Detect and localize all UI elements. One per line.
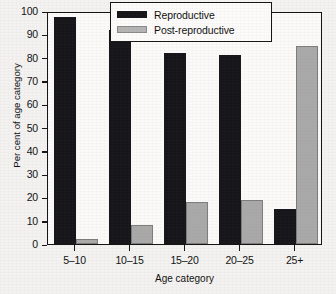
x-axis-tick-label: 20–25	[225, 254, 253, 266]
bar-group	[164, 13, 208, 244]
bar-reproductive	[54, 17, 76, 244]
bars-container	[48, 13, 321, 244]
bar-chart-figure: 0102030405060708090100 Per cent of age c…	[0, 0, 336, 294]
bar-group	[219, 13, 263, 244]
x-axis-title: Age category	[47, 273, 322, 284]
bar-post-reproductive	[241, 200, 263, 244]
x-axis-tick-mark	[294, 245, 295, 251]
y-axis-tick-label: 0	[32, 238, 38, 250]
y-axis-tick-label: 10	[27, 215, 38, 227]
bar-post-reproductive	[186, 202, 208, 244]
bar-group	[54, 13, 98, 244]
x-axis-tick-mark	[239, 245, 240, 251]
y-axis-tick-label: 100	[21, 5, 38, 17]
bar-group	[109, 13, 153, 244]
x-axis-tick-label: 25+	[286, 254, 303, 266]
legend-label-reproductive: Reproductive	[154, 9, 215, 21]
y-axis-tick-label: 90	[27, 28, 38, 40]
bar-reproductive	[109, 30, 131, 244]
y-axis-tick-label: 40	[27, 145, 38, 157]
x-axis-tick-mark	[74, 245, 75, 251]
x-axis: 5–1010–1515–2020–2525+	[47, 245, 322, 275]
y-axis-tick-label: 20	[27, 191, 38, 203]
y-axis-tick-label: 60	[27, 98, 38, 110]
bar-reproductive	[274, 209, 296, 244]
x-axis-tick-mark	[129, 245, 130, 251]
legend-swatch-reproductive	[117, 11, 147, 18]
bar-post-reproductive	[76, 239, 98, 244]
legend-label-post-reproductive: Post-reproductive	[154, 24, 235, 36]
y-axis-tick-label: 70	[27, 75, 38, 87]
y-axis-tick-label: 50	[27, 122, 38, 134]
legend-item-reproductive: Reproductive	[117, 7, 265, 22]
x-axis-tick-label: 5–10	[63, 254, 86, 266]
bar-post-reproductive	[296, 46, 318, 244]
y-axis-tick-label: 30	[27, 168, 38, 180]
y-axis-title: Per cent of age category	[11, 36, 22, 196]
y-axis: 0102030405060708090100	[0, 12, 47, 245]
x-axis-tick-label: 15–20	[170, 254, 198, 266]
plot-area	[47, 12, 322, 245]
legend-swatch-post-reproductive	[117, 26, 147, 33]
bar-post-reproductive	[131, 225, 153, 244]
bar-reproductive	[164, 53, 186, 244]
bar-reproductive	[219, 55, 241, 244]
x-axis-tick-label: 10–15	[115, 254, 143, 266]
chart-legend: Reproductive Post-reproductive	[110, 2, 272, 42]
bar-group	[274, 13, 318, 244]
legend-item-post-reproductive: Post-reproductive	[117, 22, 265, 37]
y-axis-tick-label: 80	[27, 52, 38, 64]
x-axis-tick-mark	[184, 245, 185, 251]
